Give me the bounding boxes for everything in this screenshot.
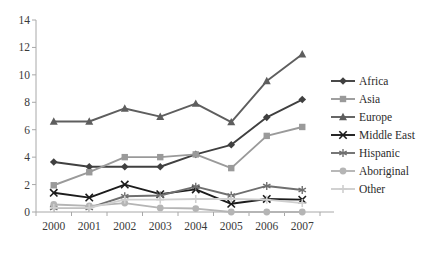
- legend-label: Middle East: [359, 129, 415, 141]
- plot-area: [36, 20, 320, 212]
- chart-series-layer: [36, 20, 320, 212]
- y-axis-tick-label: 14: [19, 14, 31, 26]
- y-axis-tick-label: 10: [19, 69, 31, 81]
- legend-item-africa[interactable]: Africa: [330, 72, 425, 90]
- chart-legend: AfricaAsiaEuropeMiddle EastHispanicAbori…: [330, 72, 425, 198]
- y-axis-tick-label: 12: [19, 41, 31, 53]
- x-axis-tick-label: 2005: [220, 220, 243, 232]
- line-chart: 02468101214 2000200120022003200420052006…: [0, 0, 425, 256]
- legend-marker-circle-icon: [330, 164, 356, 178]
- legend-marker-x-icon: [330, 128, 356, 142]
- x-axis-tick-label: 2007: [291, 220, 314, 232]
- x-axis-tick-label: 2002: [113, 220, 136, 232]
- legend-label: Aboriginal: [359, 165, 409, 177]
- x-axis-tick-labels: 20002001200220032004200520062007: [0, 214, 425, 242]
- x-axis-tick-label: 2004: [184, 220, 207, 232]
- legend-item-other[interactable]: Other: [330, 180, 425, 198]
- legend-item-aboriginal[interactable]: Aboriginal: [330, 162, 425, 180]
- legend-label: Hispanic: [359, 147, 400, 159]
- legend-marker-plus-icon: [330, 182, 356, 196]
- legend-item-asia[interactable]: Asia: [330, 90, 425, 108]
- x-axis-tick-label: 2000: [42, 220, 65, 232]
- x-axis-tick-label: 2001: [78, 220, 101, 232]
- series-asia: [51, 124, 306, 189]
- legend-label: Africa: [359, 75, 388, 87]
- legend-item-middle-east[interactable]: Middle East: [330, 126, 425, 144]
- legend-marker-triangle-icon: [330, 110, 356, 124]
- legend-item-europe[interactable]: Europe: [330, 108, 425, 126]
- x-axis-tick-label: 2006: [255, 220, 278, 232]
- y-axis-tick-label: 8: [24, 96, 30, 108]
- legend-label: Other: [359, 183, 385, 195]
- legend-marker-square-icon: [330, 92, 356, 106]
- legend-label: Asia: [359, 93, 380, 105]
- y-axis-tick-label: 6: [24, 124, 30, 136]
- series-europe: [50, 50, 307, 125]
- y-axis-tick-label: 2: [24, 179, 30, 191]
- legend-marker-asterisk-icon: [330, 146, 356, 160]
- x-axis-tick-label: 2003: [149, 220, 172, 232]
- legend-item-hispanic[interactable]: Hispanic: [330, 144, 425, 162]
- y-axis-tick-label: 4: [24, 151, 30, 163]
- legend-label: Europe: [359, 111, 392, 123]
- legend-marker-diamond-icon: [330, 74, 356, 88]
